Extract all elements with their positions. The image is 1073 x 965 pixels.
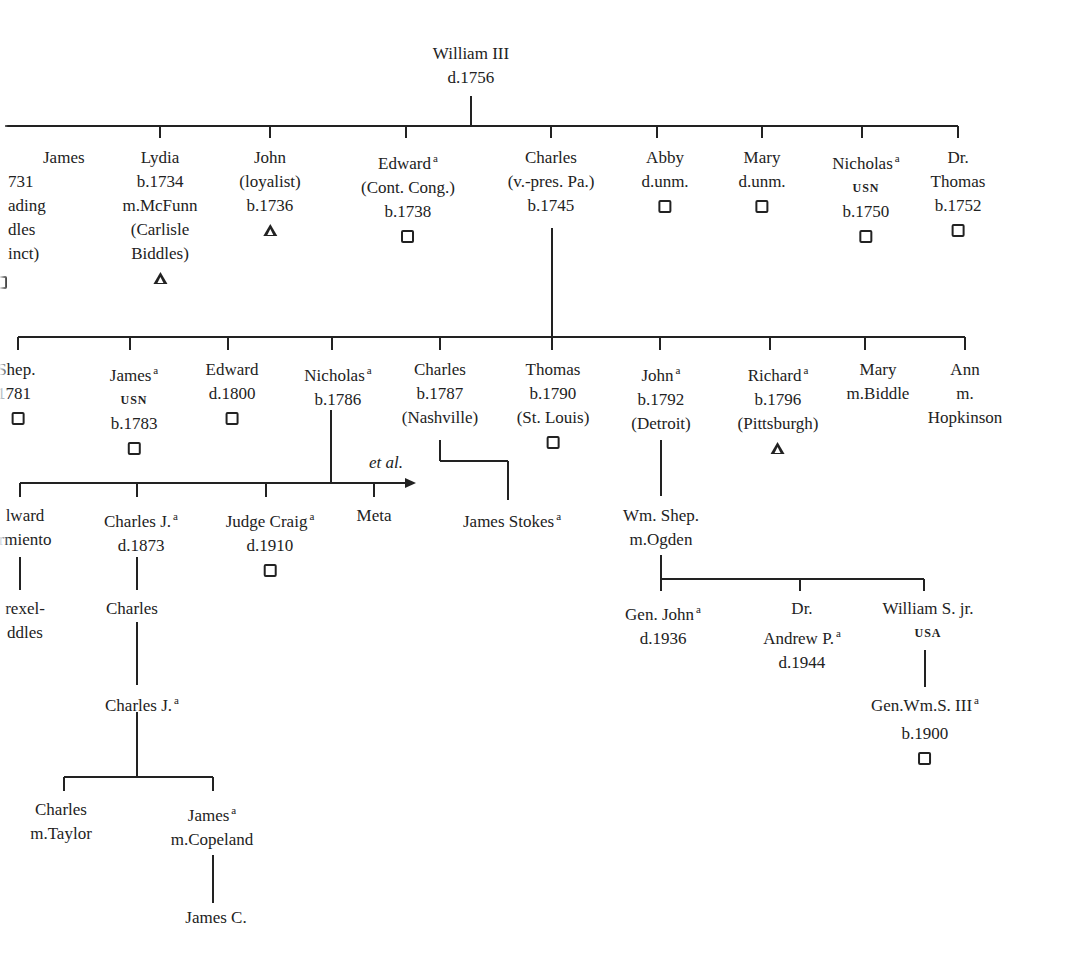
square-icon <box>110 436 158 460</box>
node-charles-nashville: Charles b.1787 (Nashville) <box>402 358 478 430</box>
square-icon <box>871 746 979 770</box>
triangle-icon <box>122 266 197 290</box>
node-edward-cont-cong: Edwarda (Cont. Cong.) b.1738 <box>361 146 455 248</box>
node-nicholas-usn: Nicholasa USN b.1750 <box>832 146 899 248</box>
node-meta: Meta <box>357 504 392 528</box>
page-edge-shadow <box>0 0 8 965</box>
node-nicholas-gen2: Nicholasa b.1786 <box>304 358 371 412</box>
square-icon <box>738 194 785 218</box>
node-dr-thomas: Dr. Thomas b.1752 <box>931 146 986 242</box>
square-icon <box>226 558 315 582</box>
square-icon <box>206 406 259 430</box>
square-icon <box>361 224 455 248</box>
node-james-gen1: James 731 ading dles inct) <box>36 146 85 266</box>
node-gen-john: Gen. Johna d.1936 <box>625 597 701 651</box>
node-lydia: Lydia b.1734 m.McFunn (Carlisle Biddles) <box>122 146 197 290</box>
node-wm-shep-ogden: Wm. Shep. m.Ogden <box>623 504 699 552</box>
node-mary-gen1: Mary d.unm. <box>738 146 785 218</box>
node-charles-j-gen3: Charles J.a d.1873 <box>104 504 178 558</box>
node-john-detroit: Johna b.1792 (Detroit) <box>631 358 690 436</box>
node-james-copeland: Jamesa m.Copeland <box>171 798 254 852</box>
square-icon <box>517 430 590 454</box>
node-james-c: James C. <box>185 906 246 930</box>
node-ann-hopkinson: Ann m. Hopkinson <box>928 358 1003 430</box>
et-al-label: et al. <box>369 453 403 473</box>
node-charles-gen4: Charles <box>106 597 158 621</box>
node-charles-vp: Charles (v.-pres. Pa.) b.1745 <box>508 146 595 218</box>
square-icon <box>931 218 986 242</box>
node-charles-j-gen5: Charles J.a <box>105 688 179 718</box>
square-icon <box>641 194 688 218</box>
node-edward-gen2: Edward d.1800 <box>206 358 259 430</box>
node-dr-andrew-p: Dr. Andrew P.a d.1944 <box>763 597 841 675</box>
node-john-loyalist: John (loyalist) b.1736 <box>239 146 300 242</box>
triangle-icon <box>239 218 300 242</box>
triangle-icon <box>738 436 819 460</box>
node-william-iii: William III d.1756 <box>433 42 509 90</box>
node-james-stokes: James Stokesa <box>463 504 561 534</box>
node-richard-pittsburgh: Richarda b.1796 (Pittsburgh) <box>738 358 819 460</box>
node-gen-wm-s-iii: Gen.Wm.S. IIIa b.1900 <box>871 688 979 770</box>
connector-lines <box>0 0 1073 965</box>
node-charles-taylor: Charles m.Taylor <box>30 798 92 846</box>
node-mary-biddle: Mary m.Biddle <box>847 358 910 406</box>
square-icon <box>832 224 899 248</box>
detail: d.1756 <box>433 66 509 90</box>
node-thomas-st-louis: Thomas b.1790 (St. Louis) <box>517 358 590 454</box>
node-judge-craig: Judge Craiga d.1910 <box>226 504 315 582</box>
node-james-usn: Jamesa USN b.1783 <box>110 358 158 460</box>
name: William III <box>433 42 509 66</box>
node-william-s-jr: William S. jr. USA <box>883 597 974 645</box>
node-abby: Abby d.unm. <box>641 146 688 218</box>
